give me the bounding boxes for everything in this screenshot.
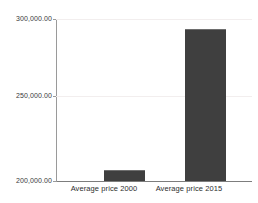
y-axis-tick-label-300000: 300,000.00 [0,15,52,22]
y-axis-tick-label-200000: 200,000.00 [0,177,52,184]
x-axis-category-label-0: Average price 2000 [64,184,144,193]
y-axis-tick-label-250000: 250,000.00 [0,92,52,99]
gridline-300000 [56,19,252,20]
y-axis-tick-mark-200000 [53,181,57,182]
plot-area [56,19,252,181]
bar-average-price-2000 [104,170,145,181]
bar-chart: 300,000.00 250,000.00 200,000.00 Average… [0,0,258,203]
x-axis-line [56,181,252,182]
x-axis-category-label-1: Average price 2015 [145,184,233,193]
bar-average-price-2015 [185,29,226,181]
